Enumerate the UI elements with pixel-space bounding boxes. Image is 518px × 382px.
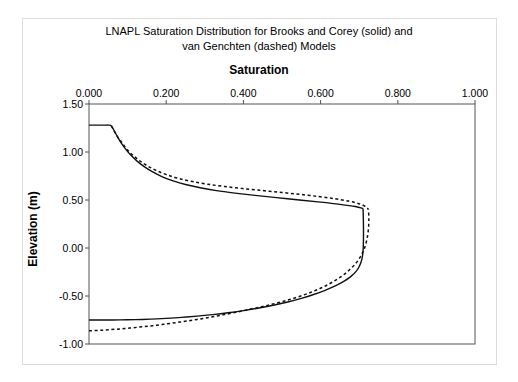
x-tick-marks-group <box>89 100 475 104</box>
x-tick-label: 0.200 <box>153 87 179 99</box>
y-tick-label: 1.00 <box>63 146 84 158</box>
x-tick-label: 0.600 <box>307 87 333 99</box>
x-axis-title: Saturation <box>229 63 288 77</box>
curve-solid-upper <box>89 125 363 208</box>
y-tick-label: -0.50 <box>59 290 83 302</box>
chart-title-line-1: LNAPL Saturation Distribution for Brooks… <box>105 25 412 37</box>
y-tick-labels-group: 1.501.000.500.00-0.50-1.00 <box>59 98 83 350</box>
y-axis-title: Elevation (m) <box>26 191 40 266</box>
chart-title-line-2: van Genchten (dashed) Models <box>182 40 336 52</box>
lnapl-saturation-chart: LNAPL Saturation Distribution for Brooks… <box>23 19 496 364</box>
data-series-group <box>89 125 369 331</box>
x-tick-label: 0.400 <box>230 87 256 99</box>
x-tick-label: 1.000 <box>462 87 488 99</box>
y-tick-marks-group <box>85 104 89 344</box>
y-tick-label: -1.00 <box>59 338 83 350</box>
y-tick-label: 0.50 <box>63 194 84 206</box>
x-tick-label: 0.800 <box>385 87 411 99</box>
curve-solid-lower <box>89 208 363 320</box>
y-tick-label: 0.00 <box>63 242 84 254</box>
curve-dashed-upper <box>111 126 368 210</box>
x-tick-labels-group: 0.0000.2000.4000.6000.8001.000 <box>76 87 488 99</box>
figure-frame: LNAPL Saturation Distribution for Brooks… <box>22 18 497 365</box>
plot-area-frame <box>89 104 475 344</box>
y-tick-label: 1.50 <box>63 98 84 110</box>
